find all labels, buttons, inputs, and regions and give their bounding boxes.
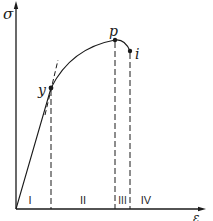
region-label-4: IV <box>141 194 152 206</box>
stress-strain-curve <box>16 40 130 209</box>
point-y-label: y <box>37 82 47 98</box>
x-axis-label: ε <box>193 211 199 221</box>
point-p-label: p <box>109 23 118 39</box>
region-label-2: II <box>80 194 86 206</box>
region-label-3: III <box>118 195 126 206</box>
region-label-1: I <box>28 194 31 206</box>
point-i-marker <box>128 49 132 53</box>
y-axis <box>14 1 18 209</box>
x-axis <box>16 207 206 211</box>
y-axis-arrow-icon <box>14 1 18 9</box>
point-y-marker <box>49 86 54 91</box>
point-i-label: i <box>135 46 139 62</box>
stress-strain-diagram: σ ε y p i I II III IV <box>0 0 213 221</box>
y-axis-label: σ <box>3 5 14 23</box>
